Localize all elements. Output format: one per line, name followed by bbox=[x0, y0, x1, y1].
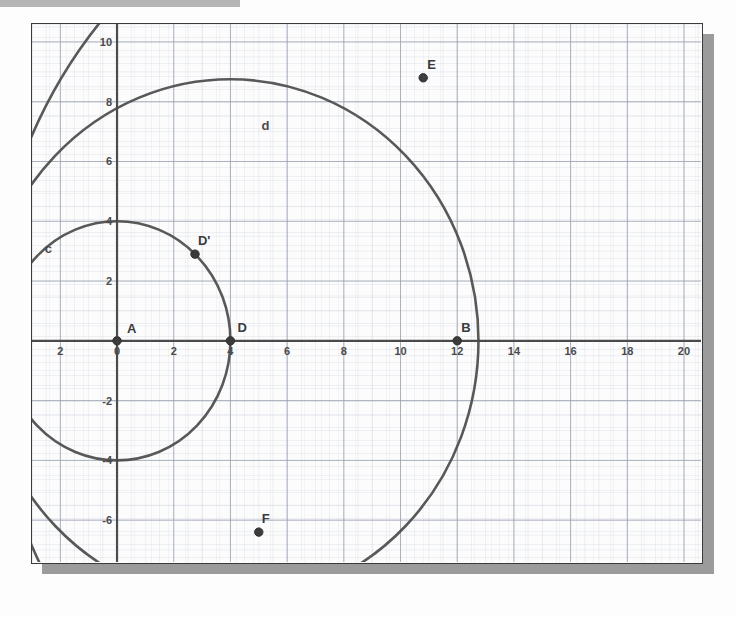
svg-text:E: E bbox=[427, 57, 436, 72]
svg-text:A: A bbox=[127, 321, 137, 336]
point-labels: ABDD'EF bbox=[127, 57, 471, 526]
page-background: 202468101214161820108642-2-4-6 cd ABDD'E… bbox=[0, 0, 736, 617]
svg-text:6: 6 bbox=[106, 155, 112, 167]
svg-text:2: 2 bbox=[106, 275, 112, 287]
svg-text:10: 10 bbox=[394, 345, 406, 357]
axes bbox=[32, 24, 701, 562]
svg-text:2: 2 bbox=[57, 345, 63, 357]
svg-text:18: 18 bbox=[621, 345, 633, 357]
svg-text:D: D bbox=[237, 320, 246, 335]
svg-text:2: 2 bbox=[171, 345, 177, 357]
svg-text:8: 8 bbox=[341, 345, 347, 357]
geometry-plot: 202468101214161820108642-2-4-6 cd ABDD'E… bbox=[32, 24, 701, 562]
svg-text:-6: -6 bbox=[102, 514, 112, 526]
svg-text:20: 20 bbox=[678, 345, 690, 357]
plot-frame: 202468101214161820108642-2-4-6 cd ABDD'E… bbox=[31, 23, 703, 564]
scan-highlight-bar bbox=[0, 0, 240, 7]
svg-text:D': D' bbox=[198, 233, 210, 248]
grid-major bbox=[32, 24, 701, 562]
svg-text:F: F bbox=[262, 511, 270, 526]
svg-text:B: B bbox=[461, 320, 470, 335]
svg-text:10: 10 bbox=[100, 36, 112, 48]
svg-text:6: 6 bbox=[284, 345, 290, 357]
svg-text:-2: -2 bbox=[102, 395, 112, 407]
svg-text:12: 12 bbox=[451, 345, 463, 357]
svg-text:8: 8 bbox=[106, 96, 112, 108]
svg-text:14: 14 bbox=[508, 345, 521, 357]
curve-labels: cd bbox=[45, 118, 270, 256]
grid-minor bbox=[32, 24, 701, 562]
circle-curves bbox=[32, 24, 701, 562]
svg-text:16: 16 bbox=[564, 345, 576, 357]
svg-text:d: d bbox=[262, 118, 270, 133]
svg-text:0: 0 bbox=[114, 345, 120, 357]
svg-text:c: c bbox=[45, 241, 52, 256]
